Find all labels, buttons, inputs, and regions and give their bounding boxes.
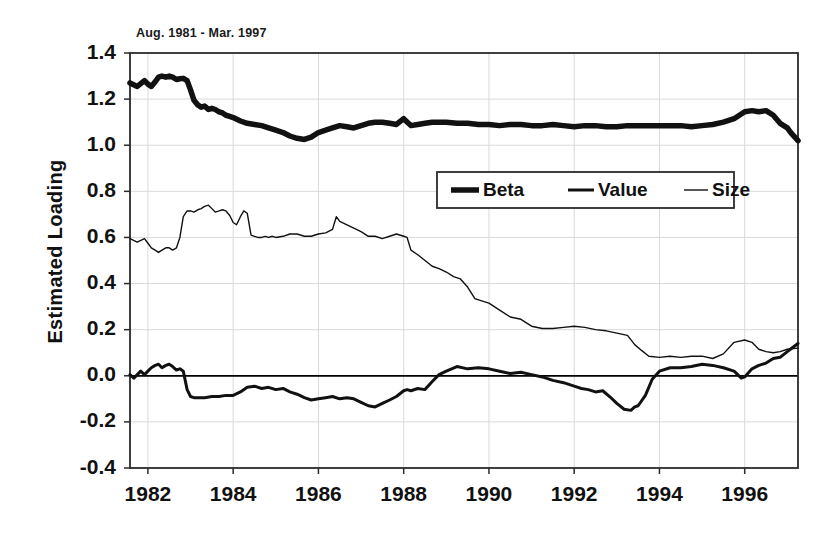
x-tick-label: 1990 (466, 482, 513, 505)
y-tick-label: 1.4 (87, 40, 117, 63)
y-tick-label: 0.8 (87, 178, 117, 201)
tick-marks (124, 53, 745, 474)
series-layer (130, 76, 798, 410)
x-tick-labels: 19821984198619881990199219941996 (125, 482, 769, 505)
chart-root: Aug. 1981 - Mar. 1997 Estimated Loading … (0, 0, 829, 535)
series-line-value (130, 344, 798, 411)
legend-label-value: Value (598, 179, 648, 200)
series-line-size (130, 205, 798, 358)
y-tick-label: 1.0 (87, 132, 116, 155)
x-tick-label: 1982 (125, 482, 172, 505)
y-tick-label: -0.2 (80, 408, 116, 431)
chart-legend: BetaValueSize (437, 172, 750, 208)
series-line-beta (130, 76, 798, 141)
x-tick-label: 1994 (636, 482, 683, 505)
y-tick-label: 0.4 (87, 270, 117, 293)
x-tick-label: 1996 (721, 482, 768, 505)
line-chart-svg: 1.41.21.00.80.60.40.20.0-0.2-0.4 1982198… (0, 0, 829, 535)
y-tick-label: 0.2 (87, 316, 116, 339)
x-tick-label: 1986 (295, 482, 342, 505)
y-tick-label: 0.0 (87, 362, 116, 385)
legend-label-beta: Beta (483, 179, 525, 200)
x-tick-label: 1984 (210, 482, 257, 505)
plot-area: 1.41.21.00.80.60.40.20.0-0.2-0.4 1982198… (0, 0, 829, 535)
y-tick-labels: 1.41.21.00.80.60.40.20.0-0.2-0.4 (80, 40, 117, 478)
y-tick-label: 0.6 (87, 224, 116, 247)
y-tick-label: -0.4 (80, 455, 117, 478)
x-tick-label: 1988 (380, 482, 427, 505)
legend-label-size: Size (712, 179, 750, 200)
x-tick-label: 1992 (551, 482, 598, 505)
y-tick-label: 1.2 (87, 86, 116, 109)
